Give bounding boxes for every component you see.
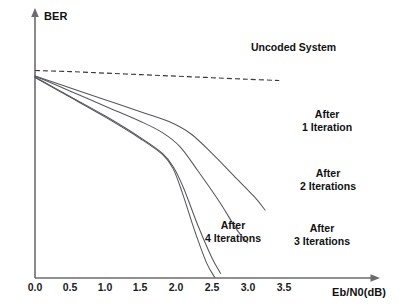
y-axis-title: BER [44,10,68,22]
x-tick-label-2: 1.0 [98,281,113,293]
curve-after-4-iterations [35,78,215,278]
y-axis [31,8,39,278]
annotation-after-2-iterations: After 2 Iterations [300,167,356,192]
curve-after-3-iterations [35,77,221,273]
x-tick-label-5: 2.5 [205,281,220,293]
x-tick-label-7: 3.5 [277,281,292,293]
annotation-after-4-iterations: After 4 Iterations [205,219,261,244]
annotation-uncoded-system: Uncoded System [251,41,336,54]
x-tick-label-6: 3.0 [241,281,256,293]
x-tick-label-3: 1.5 [133,281,148,293]
ber-curves [35,71,279,278]
x-axis-title: Eb/N0(dB) [332,286,386,298]
y-axis-arrowhead [31,8,39,17]
x-tick-label-1: 0.5 [63,281,78,293]
chart-plot-area: 0.0 0.5 1.0 1.5 2.0 2.5 3.0 3.5 [0,0,420,307]
x-axis-arrowhead [371,274,381,282]
curve-uncoded-system [35,71,279,81]
curve-after-2-iterations [35,76,247,243]
x-tick-label-0: 0.0 [28,281,43,293]
x-tick-labels: 0.0 0.5 1.0 1.5 2.0 2.5 3.0 3.5 [28,281,292,293]
annotation-after-3-iterations: After 3 Iterations [294,222,350,247]
annotation-after-1-iteration: After 1 Iteration [302,108,352,133]
ber-chart-figure: 0.0 0.5 1.0 1.5 2.0 2.5 3.0 3.5 BER Eb/N… [0,0,420,307]
x-tick-label-4: 2.0 [169,281,184,293]
